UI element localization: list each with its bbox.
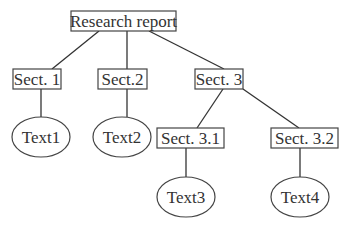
edge-s3-s32 bbox=[243, 89, 299, 128]
edge-s3-s31 bbox=[197, 89, 223, 128]
node-text1: Text1 bbox=[12, 117, 70, 157]
svg-text:Text4: Text4 bbox=[281, 188, 320, 207]
node-sect-3-2: Sect. 3.2 bbox=[271, 128, 338, 148]
svg-text:Text1: Text1 bbox=[22, 128, 60, 147]
node-sect-3-1: Sect. 3.1 bbox=[157, 128, 224, 148]
svg-text:Text3: Text3 bbox=[167, 188, 205, 207]
svg-text:Sect.2: Sect.2 bbox=[101, 70, 143, 89]
node-sect-1: Sect. 1 bbox=[13, 69, 61, 89]
svg-text:Text2: Text2 bbox=[103, 128, 141, 147]
node-sect-2: Sect.2 bbox=[98, 69, 147, 89]
edge-root-s3 bbox=[149, 31, 224, 69]
svg-text:Sect. 1: Sect. 1 bbox=[14, 70, 60, 89]
svg-text:Research report: Research report bbox=[70, 12, 177, 31]
node-text4: Text4 bbox=[271, 177, 329, 217]
node-text2: Text2 bbox=[93, 117, 151, 157]
edges bbox=[41, 31, 300, 177]
node-text3: Text3 bbox=[157, 177, 215, 217]
svg-text:Sect. 3: Sect. 3 bbox=[196, 70, 242, 89]
node-research-report: Research report bbox=[70, 11, 177, 31]
tree-diagram: Research report Sect. 1 Sect.2 Sect. 3 T… bbox=[0, 0, 350, 226]
edge-root-s1 bbox=[52, 31, 99, 69]
node-sect-3: Sect. 3 bbox=[195, 69, 243, 89]
svg-text:Sect. 3.1: Sect. 3.1 bbox=[161, 129, 220, 148]
svg-text:Sect. 3.2: Sect. 3.2 bbox=[275, 129, 334, 148]
